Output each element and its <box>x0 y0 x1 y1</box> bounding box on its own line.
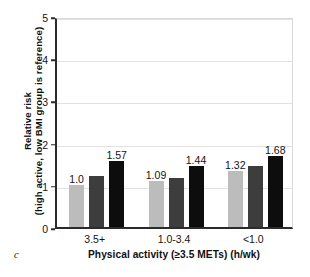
y-tick-label: 2 <box>42 139 48 151</box>
bar <box>268 156 283 227</box>
bar <box>89 176 104 227</box>
x-category-label: <1.0 <box>243 233 264 245</box>
plot-area: 1.01.571.091.441.321.68 <box>55 18 293 229</box>
bar-series-container: 1.01.571.091.441.321.68 <box>57 19 292 227</box>
x-category-label: 1.0-3.4 <box>158 233 191 245</box>
bar <box>109 161 124 227</box>
y-axis-ticks: 012345 <box>0 18 55 229</box>
panel-letter: c <box>14 249 19 260</box>
bar <box>248 166 263 227</box>
y-tick-label: 3 <box>42 96 48 108</box>
bar <box>189 166 204 227</box>
y-tick-label: 0 <box>42 223 48 235</box>
bar <box>169 178 184 227</box>
y-tick-label: 4 <box>42 54 48 66</box>
bar-value-label: 1.68 <box>255 144 295 156</box>
bar-value-label: 1.57 <box>97 149 137 161</box>
x-axis-title: Physical activity (≥3.5 METs) (h/wk) <box>55 249 293 260</box>
bar <box>228 171 243 227</box>
figure-panel: Relative risk (high active, low BMI grou… <box>0 0 310 277</box>
bar <box>149 181 164 227</box>
y-tick-label: 1 <box>42 181 48 193</box>
bar <box>69 185 84 227</box>
x-axis-category-labels: 3.5+1.0-3.4<1.0 <box>55 233 293 247</box>
bar-value-label: 1.44 <box>176 154 216 166</box>
x-category-label: 3.5+ <box>84 233 105 245</box>
y-tick-label: 5 <box>42 12 48 24</box>
